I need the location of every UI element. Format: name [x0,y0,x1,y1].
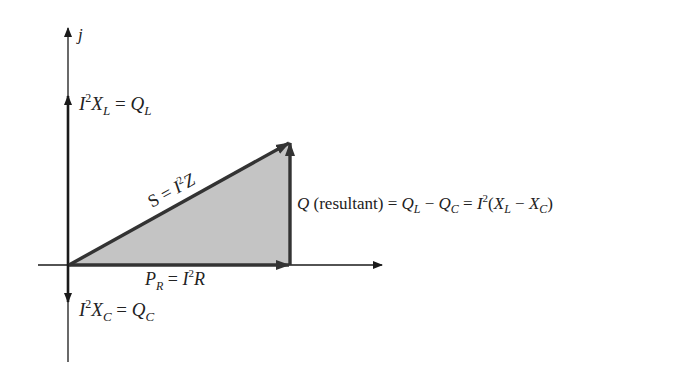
imag-axis-label: j [76,25,83,44]
pr-label: PR = I2R [144,267,205,293]
ql-label: I2XL = QL [78,91,151,118]
power-triangle-diagram: j I2XL = QL I2XC = QC S = I2Z PR = I2R Q… [0,0,694,380]
q-resultant-label: Q (resultant) = QL − QC = I2(XL − XC) [297,192,553,216]
qc-label: I2XC = QC [78,297,155,324]
